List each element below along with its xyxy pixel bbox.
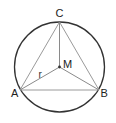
label-b: B — [101, 87, 108, 99]
side-bc — [60, 22, 100, 90]
radius-mb — [60, 67, 100, 90]
label-a: A — [11, 87, 19, 99]
center-point-m — [58, 66, 61, 69]
label-m: M — [63, 58, 72, 70]
label-radius-r: r — [39, 69, 43, 80]
label-c: C — [56, 7, 64, 19]
circumcircle-diagram: C A B M r — [0, 0, 116, 123]
